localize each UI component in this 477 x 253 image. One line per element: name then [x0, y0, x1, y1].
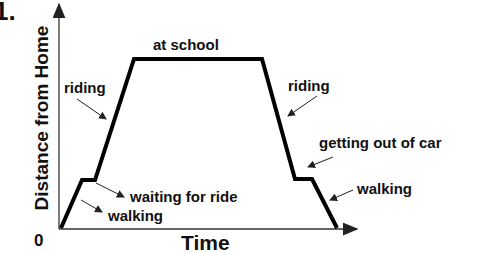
arrow-riding-left: [77, 99, 106, 119]
arrow-walking-right: [330, 190, 353, 200]
arrow-waiting: [96, 183, 124, 197]
arrow-riding-right: [288, 96, 317, 116]
x-axis-label: Time: [181, 231, 230, 253]
label-walking-right: walking: [356, 180, 412, 197]
figure-number: 1.: [0, 0, 16, 26]
arrow-getting-out: [308, 157, 333, 167]
distance-time-diagram: 1. Distance from Home 0 Time at school r…: [0, 0, 477, 253]
label-riding-right: riding: [288, 77, 330, 94]
label-waiting: waiting for ride: [129, 188, 238, 205]
label-walking-left: walking: [107, 207, 163, 224]
origin-label: 0: [34, 231, 43, 250]
label-riding-left: riding: [64, 79, 106, 96]
y-axis-label: Distance from Home: [31, 26, 52, 211]
label-getting-out: getting out of car: [319, 134, 442, 151]
label-at-school: at school: [153, 36, 219, 53]
arrow-walking-left: [81, 200, 102, 212]
